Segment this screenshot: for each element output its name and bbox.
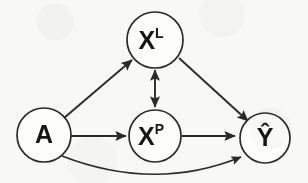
node-xl-superscript: L — [155, 25, 164, 41]
node-a-label: A — [35, 120, 53, 148]
node-yhat[interactable]: Ŷ — [240, 113, 290, 163]
diagram-canvas: A XL XP Ŷ — [0, 0, 308, 183]
node-xp-superscript: P — [155, 121, 164, 137]
node-xp[interactable]: XP — [129, 110, 181, 162]
causal-diagram-figure: A XL XP Ŷ — [0, 0, 308, 183]
edge-xl-to-yhat — [179, 58, 248, 121]
node-layer: A XL XP Ŷ — [17, 12, 290, 163]
node-xl[interactable]: XL — [127, 12, 183, 68]
edge-a-to-xl — [64, 60, 132, 118]
node-a[interactable]: A — [17, 108, 71, 162]
node-yhat-label: Ŷ — [257, 122, 274, 151]
